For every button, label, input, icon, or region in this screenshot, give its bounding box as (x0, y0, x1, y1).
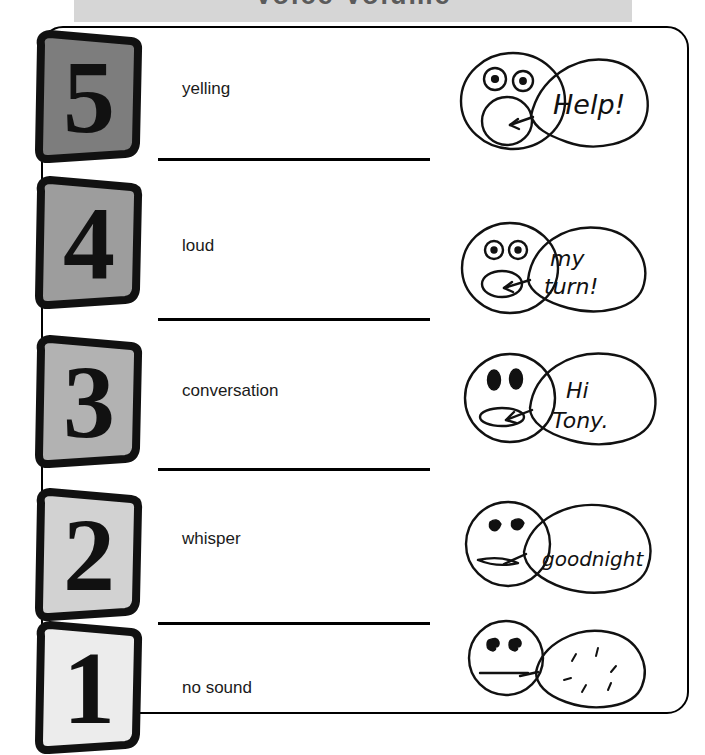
level-label-3: conversation (182, 381, 278, 401)
level-label-5: yelling (182, 79, 230, 99)
level-badge-1[interactable]: 1 (35, 622, 143, 754)
divider-5-4 (158, 158, 430, 161)
bubble-text-3-line2: Tony. (552, 408, 608, 433)
header-band: Voice Volume (74, 0, 632, 22)
silence-dashes-icon (564, 648, 616, 692)
badge-number-3: 3 (63, 344, 115, 459)
level-badge-2[interactable]: 2 (35, 489, 143, 621)
badge-number-2: 2 (63, 497, 115, 612)
divider-3-2 (158, 468, 430, 471)
level-label-1: no sound (182, 678, 252, 698)
bubble-text-5: Help! (553, 89, 625, 120)
badge-number-5: 5 (63, 39, 115, 154)
level-label-4: loud (182, 236, 214, 256)
page-title: Voice Volume (74, 0, 632, 11)
yelling-face-icon: Help! (455, 48, 655, 153)
level-badge-4[interactable]: 4 (35, 177, 143, 309)
level-badge-5[interactable]: 5 (35, 31, 143, 163)
bubble-text-2: goodnight (542, 547, 644, 571)
whisper-face-icon: goodnight (458, 496, 663, 601)
no-sound-face-icon (458, 616, 663, 716)
conversation-face-icon: Hi Tony. (458, 346, 663, 451)
badge-number-4: 4 (63, 185, 115, 300)
level-label-2: whisper (182, 529, 241, 549)
bubble-text-4-line2: turn! (544, 274, 598, 299)
divider-4-3 (158, 318, 430, 321)
loud-face-icon: my turn! (458, 218, 658, 318)
bubble-text-4-line1: my (550, 246, 585, 271)
badge-number-1: 1 (63, 630, 115, 745)
level-badge-3[interactable]: 3 (35, 336, 143, 468)
divider-2-1 (158, 622, 430, 625)
bubble-text-3-line1: Hi (566, 378, 589, 403)
